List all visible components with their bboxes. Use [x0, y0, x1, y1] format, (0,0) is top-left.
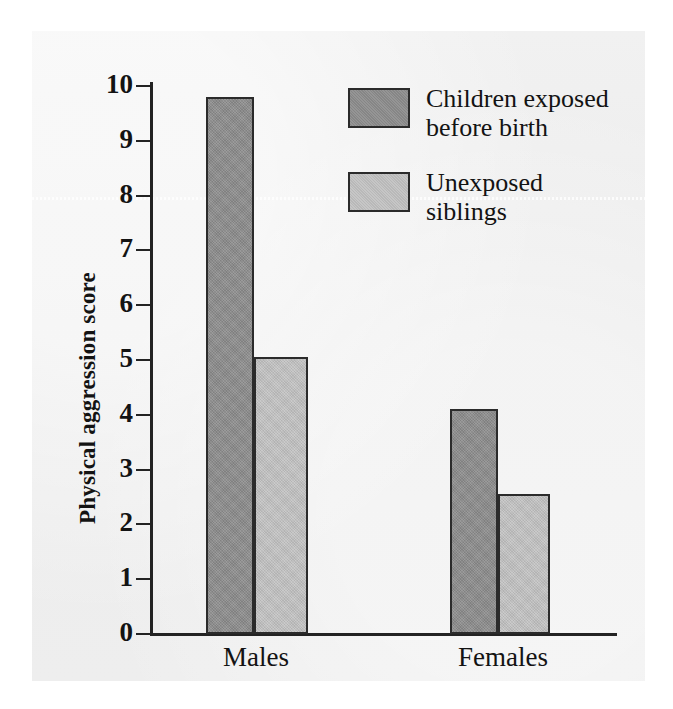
x-category-label-males: Males — [186, 643, 326, 673]
y-tick-label: 9 — [87, 126, 133, 153]
legend: Children exposed before birth Unexposed … — [348, 84, 628, 252]
y-tick-label: 1 — [87, 564, 133, 591]
dark-gray-swatch — [348, 88, 410, 128]
legend-item-exposed: Children exposed before birth — [348, 84, 628, 142]
y-tick-mark — [136, 414, 151, 416]
y-tick-mark — [136, 195, 151, 197]
legend-item-unexposed: Unexposed siblings — [348, 168, 628, 226]
legend-label-unexposed: Unexposed siblings — [426, 168, 543, 226]
y-tick-mark — [136, 359, 151, 361]
y-tick-mark — [136, 523, 151, 525]
y-tick-mark — [136, 249, 151, 251]
bar-females-exposed — [450, 409, 498, 634]
bar-males-unexposed — [254, 357, 308, 634]
figure-container: 10 9 8 7 6 5 4 3 — [0, 0, 673, 709]
bar-females-unexposed — [498, 494, 550, 634]
y-tick-label: 8 — [87, 181, 133, 208]
y-tick-label: 10 — [87, 71, 133, 98]
y-tick-mark — [136, 140, 151, 142]
y-tick-mark — [136, 304, 151, 306]
bar-chart-plot: 10 9 8 7 6 5 4 3 — [0, 0, 673, 709]
bar-males-exposed — [206, 97, 254, 634]
light-gray-swatch — [348, 172, 410, 212]
y-tick-mark — [136, 633, 151, 635]
y-axis-title: Physical aggression score — [75, 248, 101, 548]
y-tick-mark — [136, 85, 151, 87]
legend-label-exposed: Children exposed before birth — [426, 84, 609, 142]
y-tick-mark — [136, 578, 151, 580]
y-tick-label: 0 — [87, 619, 133, 646]
y-tick-mark — [136, 469, 151, 471]
x-category-label-females: Females — [428, 643, 578, 673]
